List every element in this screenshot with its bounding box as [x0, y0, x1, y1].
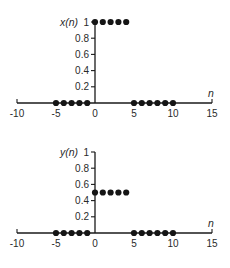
- data-point: [76, 230, 82, 236]
- x-tick-label: 5: [131, 238, 137, 249]
- x-tick-label: 0: [92, 238, 98, 249]
- x-tick-label: 10: [167, 238, 179, 249]
- data-point: [115, 19, 121, 25]
- data-point: [147, 100, 153, 106]
- y-tick-label: 0.6: [75, 49, 89, 60]
- data-point: [162, 100, 168, 106]
- y-tick-label: 0.2: [75, 211, 89, 222]
- data-point: [53, 100, 59, 106]
- y-tick-label: 0.8: [75, 33, 89, 44]
- data-point: [61, 100, 67, 106]
- y-tick-label: 1: [83, 17, 89, 28]
- x-tick-label: 0: [92, 108, 98, 119]
- plot-bottom: -10-5051015n0.20.40.60.81y(n): [10, 146, 218, 250]
- data-point: [123, 189, 129, 195]
- x-tick-label: 5: [131, 108, 137, 119]
- data-point: [76, 100, 82, 106]
- data-point: [61, 230, 67, 236]
- y-tick-label: 0.2: [75, 81, 89, 92]
- data-point: [92, 19, 98, 25]
- data-point: [115, 189, 121, 195]
- y-axis-label: x(n): [59, 16, 78, 28]
- x-axis-label: n: [208, 217, 214, 229]
- data-point: [84, 230, 90, 236]
- data-point: [154, 230, 160, 236]
- data-point: [131, 230, 137, 236]
- x-tick-label: 15: [206, 238, 218, 249]
- data-point: [100, 19, 106, 25]
- data-point: [69, 230, 75, 236]
- data-point: [170, 230, 176, 236]
- data-point: [69, 100, 75, 106]
- x-tick-label: -5: [52, 108, 61, 119]
- data-point: [123, 19, 129, 25]
- x-tick-label: -10: [10, 108, 25, 119]
- data-point: [162, 230, 168, 236]
- x-tick-label: 10: [167, 108, 179, 119]
- data-point: [170, 100, 176, 106]
- y-tick-label: 0.4: [75, 65, 89, 76]
- data-point: [139, 100, 145, 106]
- data-point: [92, 189, 98, 195]
- data-point: [84, 100, 90, 106]
- plot-top: -10-5051015n0.20.40.60.81x(n): [10, 16, 218, 120]
- y-tick-label: 0.4: [75, 195, 89, 206]
- data-point: [154, 100, 160, 106]
- data-point: [100, 189, 106, 195]
- y-tick-label: 0.6: [75, 179, 89, 190]
- data-point: [147, 230, 153, 236]
- x-tick-label: -10: [10, 238, 25, 249]
- y-tick-label: 0.8: [75, 163, 89, 174]
- data-point: [131, 100, 137, 106]
- data-point: [108, 189, 114, 195]
- x-tick-label: 15: [206, 108, 218, 119]
- y-axis-label: y(n): [59, 146, 78, 158]
- x-tick-label: -5: [52, 238, 61, 249]
- x-axis-label: n: [208, 87, 214, 99]
- data-point: [53, 230, 59, 236]
- y-tick-label: 1: [83, 147, 89, 158]
- data-point: [139, 230, 145, 236]
- signal-plots: -10-5051015n0.20.40.60.81x(n)-10-5051015…: [0, 0, 230, 268]
- data-point: [108, 19, 114, 25]
